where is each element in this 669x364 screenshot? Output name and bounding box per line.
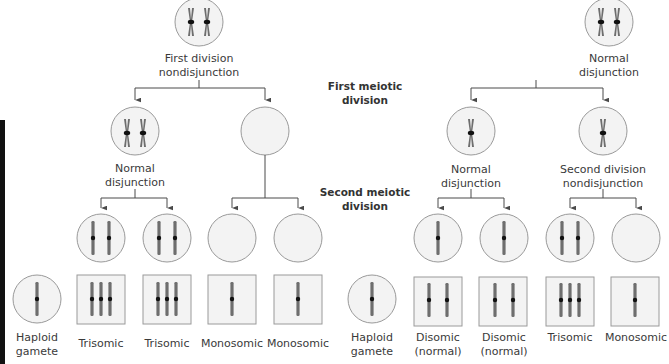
right-l2-left-label: Normal disjunction: [441, 163, 501, 191]
right-l2-right-label: Second division nondisjunction: [560, 163, 646, 191]
left-l2-cell-a: [111, 107, 159, 155]
left-gamete-label-4: Monosomic: [267, 337, 329, 351]
left-parent-cell: [175, 0, 223, 46]
right-gamete-label-3: Trisomic: [548, 331, 593, 345]
left-tree: [13, 0, 322, 324]
right-gamete-label-4: Monosomic: [605, 331, 667, 345]
left-gamete-label-2: Trisomic: [145, 337, 190, 351]
left-gamete-label-3: Monosomic: [201, 337, 263, 351]
left-gamete-label-1: Trisomic: [79, 337, 124, 351]
right-haploid-label: Haploid gamete: [351, 331, 393, 359]
first-meiotic-division-label: First meiotic division: [328, 79, 403, 107]
left-l2-cell-b: [241, 107, 289, 155]
second-meiotic-division-label: Second meiotic division: [320, 185, 411, 213]
left-top-label: First division nondisjunction: [159, 52, 240, 80]
right-top-label: Normal disjunction: [579, 52, 639, 80]
nondisjunction-diagram: First division nondisjunction Normal dis…: [0, 0, 669, 364]
left-l2-label: Normal disjunction: [105, 162, 165, 190]
right-gamete-label-2: Disomic (normal): [480, 331, 527, 359]
left-haploid-label: Haploid gamete: [16, 331, 58, 359]
right-gamete-label-1: Disomic (normal): [414, 331, 461, 359]
